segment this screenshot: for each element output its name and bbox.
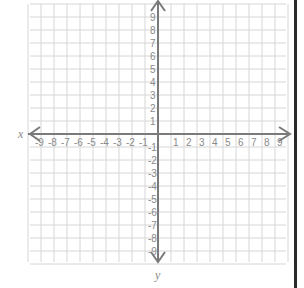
x-tick-label: 9 [277,137,283,148]
x-tick-label: 6 [238,137,244,148]
y-tick-label: 1 [150,116,156,127]
x-tick-label: -2 [126,137,135,148]
x-tick-label: -3 [113,137,122,148]
y-tick-label: 7 [150,38,156,49]
x-tick-label: -8 [48,137,57,148]
coordinate-plane: -9-8-7-6-5-4-3-2-1123456789 987654321-1-… [0,0,304,288]
x-tick-label: 8 [264,137,270,148]
y-tick-label: 6 [150,51,156,62]
x-tick-label: -5 [87,137,96,148]
x-tick-label: 5 [225,137,231,148]
y-tick-label: 3 [150,90,156,101]
x-axis-label: x [17,127,24,141]
y-tick-label: -5 [148,194,157,205]
x-tick-label: 4 [212,137,218,148]
y-tick-label: -7 [148,220,157,231]
y-tick-label: -6 [148,207,157,218]
x-tick-label: -6 [74,137,83,148]
y-axis-label: y [154,268,161,282]
x-tick-label: -1 [139,137,148,148]
y-tick-label: 8 [150,25,156,36]
y-tick-label: -8 [148,233,157,244]
y-tick-label: -4 [148,181,157,192]
right-border [294,0,297,288]
y-tick-label: -1 [148,142,157,153]
y-tick-label: 5 [150,64,156,75]
y-tick-label: -9 [148,246,157,257]
y-tick-label: 4 [150,77,156,88]
x-tick-label: 3 [199,137,205,148]
x-tick-label: -9 [35,137,44,148]
x-tick-label: 2 [186,137,192,148]
x-tick-label: 1 [173,137,179,148]
y-tick-label: -2 [148,155,157,166]
x-tick-label: -7 [61,137,70,148]
y-tick-label: 2 [150,103,156,114]
y-tick-label: 9 [150,12,156,23]
y-tick-label: -3 [148,168,157,179]
x-tick-label: 7 [251,137,257,148]
x-tick-label: -4 [100,137,109,148]
